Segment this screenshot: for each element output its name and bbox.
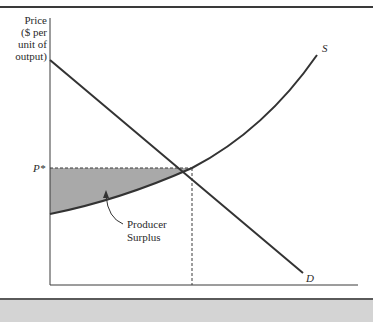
y-axis-label: Price ($ per unit of output): [15, 14, 47, 62]
producer-surplus-region: [50, 168, 192, 214]
demand-label: D: [306, 272, 314, 284]
y-axis-label-line: ($ per: [15, 26, 47, 38]
y-axis-label-line: output): [15, 50, 47, 62]
y-axis-label-line: unit of: [15, 38, 47, 50]
pstar-label: P*: [33, 162, 45, 174]
y-axis-label-line: Price: [15, 14, 47, 26]
annotation-surplus: Surplus: [127, 231, 161, 243]
supply-label: S: [322, 42, 328, 54]
demand-line: [50, 60, 303, 273]
annotation-producer: Producer: [127, 218, 167, 230]
footer-bar: [0, 298, 373, 322]
